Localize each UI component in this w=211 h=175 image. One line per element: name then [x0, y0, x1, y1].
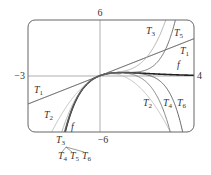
curve-t6	[28, 73, 194, 175]
label-t2: T2	[44, 109, 54, 122]
curve-t4	[28, 73, 194, 175]
y-min-tick: −6	[98, 134, 109, 145]
label-t4: T4	[58, 150, 68, 163]
label-t5: T5	[70, 150, 80, 163]
x-min-tick: −3	[14, 70, 25, 81]
label-t2: T2	[143, 97, 153, 110]
curve-f	[28, 73, 194, 175]
label-t1: T1	[180, 45, 190, 58]
curve-t2	[28, 74, 194, 175]
label-t6: T6	[82, 150, 92, 163]
curve-t5	[28, 0, 194, 175]
curve-t1	[28, 39, 194, 104]
label-t1: T1	[34, 84, 44, 97]
curve-t3	[28, 0, 194, 175]
label-f: f	[71, 121, 75, 132]
x-max-tick: 4	[197, 70, 202, 81]
label-t3: T3	[146, 25, 156, 38]
label-t6: T6	[177, 97, 187, 110]
y-max-tick: 6	[98, 7, 103, 18]
curve-labels: T3T5T1fT1T2fT2T4T6T3T4T5T6	[34, 25, 190, 163]
label-t4: T4	[163, 97, 173, 110]
label-f: f	[177, 59, 181, 70]
label-t3: T3	[56, 134, 66, 147]
taylor-polynomial-chart: 6 −6 −3 4 T3T5T1fT1T2fT2T4T6T3T4T5T6	[0, 0, 211, 175]
label-t5: T5	[174, 27, 184, 40]
curves	[28, 0, 194, 175]
